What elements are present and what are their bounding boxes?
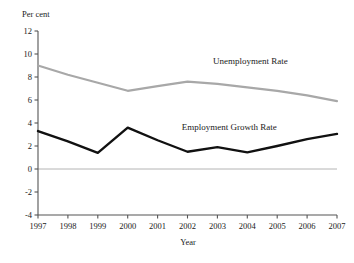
x-axis-title: Year [180,237,196,247]
y-axis-tick-label: 6 [28,95,32,105]
x-axis-tick-label: 2003 [209,221,226,231]
x-axis-tick-label: 2004 [239,221,257,231]
y-axis-tick-label: 2 [28,141,32,151]
series-label-employment-growth-rate: Employment Growth Rate [182,122,277,132]
y-axis-tick-label: -2 [25,187,32,197]
x-axis-tick-label: 1997 [30,221,47,231]
y-axis-tick-label: 4 [28,118,33,128]
x-axis-tick-group: 1997199819992000200120022003200420052006… [30,215,346,231]
series-label-unemployment-rate: Unemployment Rate [213,56,288,66]
x-axis-tick-label: 1999 [89,221,106,231]
series-line-unemployment-rate [38,66,337,102]
y-axis-tick-label: 0 [28,164,32,174]
x-axis-tick-label: 2002 [179,221,196,231]
y-axis-tick-label: 10 [24,49,33,59]
chart-container: 121086420-2-4 19971998199920002001200220… [0,0,354,263]
x-axis-tick-label: 1998 [59,221,76,231]
y-axis-tick-label: 12 [24,26,33,36]
y-axis-unit-label: Per cent [22,9,50,19]
line-chart: 121086420-2-4 19971998199920002001200220… [0,0,354,263]
x-axis-tick-label: 2005 [269,221,286,231]
x-axis-tick-label: 2007 [329,221,346,231]
x-axis-tick-label: 2006 [299,221,316,231]
x-axis-tick-label: 2000 [119,221,136,231]
y-axis-tick-label: -4 [25,210,33,220]
y-axis-tick-label: 8 [28,72,32,82]
x-axis-tick-label: 2001 [149,221,166,231]
y-axis-tick-group: 121086420-2-4 [24,26,39,220]
